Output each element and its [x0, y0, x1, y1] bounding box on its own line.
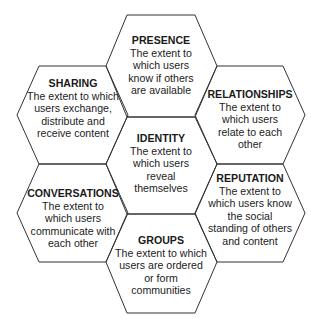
- hex-relationships-description: The extent to which users relate to each…: [210, 101, 290, 151]
- hex-sharing: SHARING The extent to which users exchan…: [18, 77, 128, 140]
- hex-groups-title: GROUPS: [106, 234, 216, 247]
- hex-groups: GROUPS The extent to which users are ord…: [106, 234, 216, 297]
- hex-identity-title: IDENTITY: [106, 132, 216, 145]
- hex-sharing-title: SHARING: [18, 77, 128, 90]
- hex-groups-description: The extent to which users are ordered or…: [114, 247, 208, 297]
- hex-conversations-title: CONVERSATIONS: [18, 187, 128, 200]
- hex-relationships-title: RELATIONSHIPS: [195, 88, 305, 101]
- hex-identity-description: The extent to which users reveal themsel…: [124, 145, 198, 195]
- hex-reputation-description: The extent to which users know the socia…: [207, 185, 293, 248]
- hex-presence-title: PRESENCE: [106, 34, 216, 47]
- hex-conversations-description: The extent to which users communicate wi…: [28, 200, 118, 250]
- hex-reputation-title: REPUTATION: [195, 172, 305, 185]
- hex-presence-description: The extent to which users know if others…: [120, 47, 202, 97]
